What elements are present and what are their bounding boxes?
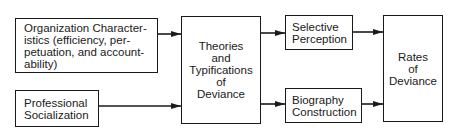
node-label: Rates of Deviance	[389, 51, 437, 87]
node-label: Biography Construction	[292, 94, 357, 118]
node-organization-characteristics: Organization Character- istics (efficien…	[15, 18, 158, 73]
node-label: Theories and Typifications of Deviance	[189, 40, 252, 100]
node-biography-construction: Biography Construction	[285, 88, 362, 123]
node-label: Professional Socialization	[24, 97, 89, 121]
node-selective-perception: Selective Perception	[285, 15, 353, 50]
node-label: Selective Perception	[292, 21, 347, 45]
node-professional-socialization: Professional Socialization	[15, 90, 99, 127]
node-label: Organization Character- istics (efficien…	[24, 22, 147, 70]
node-theories-typifications: Theories and Typifications of Deviance	[181, 16, 261, 124]
deviance-flow-diagram: Organization Character- istics (efficien…	[0, 0, 455, 134]
node-rates-of-deviance: Rates of Deviance	[383, 15, 443, 122]
